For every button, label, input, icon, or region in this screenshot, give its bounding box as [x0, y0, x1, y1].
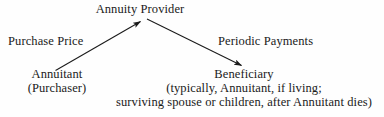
node-beneficiary: Beneficiary (typically, Annuitant, if li… — [116, 67, 372, 109]
edge-label-purchase-price: Purchase Price — [8, 35, 83, 48]
annuity-flow-diagram: Annuity Provider Purchase Price Periodic… — [0, 0, 384, 117]
node-beneficiary-line-3: surviving spouse or children, after Annu… — [116, 95, 372, 109]
node-beneficiary-line-2: (typically, Annuitant, if living; — [116, 81, 372, 95]
node-annuitant-line-2: (Purchaser) — [28, 81, 87, 95]
edge-label-periodic-payments: Periodic Payments — [218, 35, 313, 48]
node-beneficiary-line-1: Beneficiary — [116, 67, 372, 81]
node-annuitant-line-1: Annuitant — [28, 67, 87, 81]
node-annuity-provider: Annuity Provider — [96, 3, 185, 16]
node-annuitant: Annuitant (Purchaser) — [28, 67, 87, 95]
